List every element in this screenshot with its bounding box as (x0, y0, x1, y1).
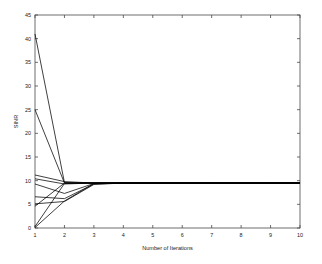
y-tick-label: 20 (25, 130, 31, 136)
x-tick-label: 7 (210, 232, 213, 238)
figure-canvas: 12345678910 051015202530354045 Number of… (0, 0, 322, 264)
y-tick-label: 10 (25, 178, 31, 184)
x-tick-label: 8 (240, 232, 243, 238)
x-tick-label: 6 (181, 232, 184, 238)
x-tick-label: 2 (63, 232, 66, 238)
y-tick-label: 5 (28, 201, 31, 207)
y-tick-label: 35 (25, 59, 31, 65)
x-tick-label: 1 (34, 232, 37, 238)
data-series-group (35, 34, 300, 228)
snir-convergence-chart: 12345678910 051015202530354045 Number of… (0, 0, 322, 264)
x-tick-label: 4 (122, 232, 125, 238)
x-tick-label: 10 (297, 232, 303, 238)
data-series-line (35, 183, 300, 227)
data-series-line (35, 175, 300, 183)
y-tick-label: 0 (28, 225, 31, 231)
y-tick-label: 15 (25, 154, 31, 160)
data-series-line (35, 34, 300, 183)
y-axis-title: SINR (13, 115, 19, 128)
x-axis-tick-labels: 12345678910 (34, 232, 304, 238)
plot-frame (35, 15, 300, 228)
y-tick-label: 45 (25, 12, 31, 18)
x-tick-label: 3 (92, 232, 95, 238)
data-series-line (35, 110, 300, 183)
x-axis-title: Number of Iterations (142, 245, 193, 251)
y-axis-tick-labels: 051015202530354045 (25, 12, 31, 231)
x-axis-ticks (35, 15, 300, 228)
x-tick-label: 5 (151, 232, 154, 238)
y-tick-label: 40 (25, 36, 31, 42)
y-axis-ticks (35, 15, 300, 228)
data-series-line (35, 183, 300, 193)
x-tick-label: 9 (269, 232, 272, 238)
y-tick-label: 25 (25, 107, 31, 113)
y-tick-label: 30 (25, 83, 31, 89)
data-series-line (35, 183, 300, 199)
